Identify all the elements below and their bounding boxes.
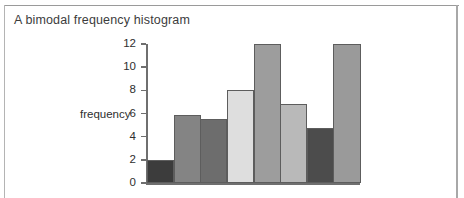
y-axis-tick-mark — [141, 43, 146, 45]
y-axis-tick-mark — [141, 90, 146, 92]
y-axis-tick-label: 10 — [110, 61, 136, 73]
x-axis-line — [146, 183, 360, 185]
histogram-bars — [147, 44, 360, 183]
y-axis-tick-label: 12 — [110, 38, 136, 50]
histogram-bar — [200, 119, 227, 183]
y-axis-tick-label: 2 — [110, 154, 136, 166]
histogram-bar — [147, 160, 174, 183]
y-axis-tick-label-wrap: 8 — [104, 84, 136, 96]
y-axis-tick-mark — [141, 136, 146, 138]
y-axis-tick-mark — [141, 159, 146, 161]
histogram-bar — [333, 44, 360, 183]
y-axis-tick-label: 4 — [110, 131, 136, 143]
y-axis-tick-label-wrap: 10 — [104, 61, 136, 73]
histogram-bar — [307, 128, 334, 183]
y-axis-tick-label-wrap: 12 — [104, 38, 136, 50]
y-axis-tick-label: 0 — [110, 177, 136, 189]
figure-frame: A bimodal frequency histogram 121086420 … — [0, 0, 464, 198]
y-axis-tick-label-wrap: 4 — [104, 131, 136, 143]
histogram-bar — [254, 44, 281, 183]
y-axis-tick-mark — [141, 182, 146, 184]
histogram-chart: 121086420 frequency — [0, 0, 464, 198]
y-axis-tick-label-wrap: 2 — [104, 154, 136, 166]
y-axis-tick-mark — [141, 113, 146, 115]
y-axis-label: frequency — [80, 108, 131, 120]
histogram-bar — [227, 90, 254, 183]
y-axis-tick-label-wrap: 0 — [104, 177, 136, 189]
y-axis-tick-label: 8 — [110, 84, 136, 96]
histogram-bar — [280, 104, 307, 183]
y-axis-tick-mark — [141, 66, 146, 68]
histogram-bar — [174, 115, 201, 183]
